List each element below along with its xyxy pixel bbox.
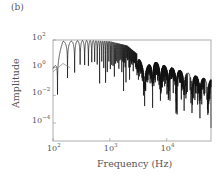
x-axis-label: Frequency (Hz) xyxy=(97,158,172,169)
x-ticks xyxy=(53,138,167,141)
x-tick-label: 103 xyxy=(104,144,118,153)
y-tick-label: 10−4 xyxy=(32,116,50,125)
y-ticks xyxy=(53,40,56,123)
y-axis-label: Amplitude xyxy=(10,58,21,108)
x-tick-label: 104 xyxy=(161,144,175,153)
y-tick-label: 10−2 xyxy=(32,88,50,97)
y-tick-label: 100 xyxy=(32,61,46,70)
spectrum-curve xyxy=(53,41,211,128)
y-tick-label: 102 xyxy=(32,33,46,42)
x-tick-label: 102 xyxy=(47,144,61,153)
